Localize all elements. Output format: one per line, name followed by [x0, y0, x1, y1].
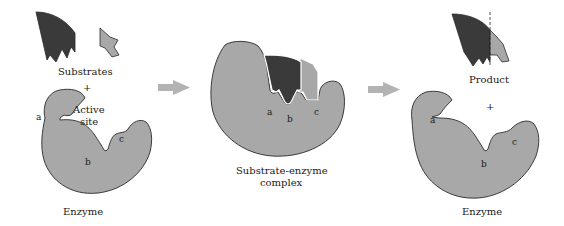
site-a-label-right: a — [430, 115, 435, 125]
active-site-label-line1: Active — [73, 104, 105, 116]
substrates-label: Substrates — [58, 66, 113, 78]
site-c-label-complex: c — [314, 107, 319, 117]
site-b-label-complex: b — [287, 114, 293, 124]
enzyme-label-left: Enzyme — [63, 206, 103, 218]
product-dark-part — [452, 14, 490, 66]
product-light-part — [490, 30, 509, 62]
light-substrate-shape — [100, 28, 119, 57]
enzyme-shape-right — [412, 91, 539, 198]
dark-substrate-shape — [36, 12, 75, 62]
complex-label-line2: complex — [260, 177, 302, 189]
site-a-label-complex: a — [267, 107, 272, 117]
site-c-label-right: c — [512, 137, 517, 147]
complex-label-line1: Substrate-enzyme — [236, 165, 328, 177]
arrow-2-shape — [368, 82, 400, 97]
site-a-label-left: a — [36, 112, 41, 122]
site-b-label-left: b — [85, 157, 91, 167]
product-label: Product — [469, 74, 509, 86]
active-site-label-line2: site — [80, 116, 98, 128]
plus-sign-right: + — [486, 101, 494, 113]
site-b-label-right: b — [481, 159, 487, 169]
arrow-1-shape — [158, 80, 190, 95]
enzyme-label-right: Enzyme — [462, 206, 502, 218]
site-c-label-left: c — [119, 134, 124, 144]
enzyme-substrate-diagram: Substrates + Active site a b c Enzyme a … — [0, 0, 564, 226]
plus-sign-left: + — [83, 82, 91, 94]
